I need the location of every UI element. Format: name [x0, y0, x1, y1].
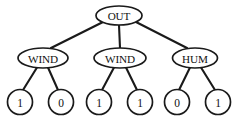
- node-wind-middle-label: WIND: [105, 53, 135, 65]
- edge-hum-right-leaf-5: [179, 68, 190, 91]
- edge-wind-middle-leaf-3: [102, 68, 114, 91]
- root-label: OUT: [108, 10, 131, 22]
- edge-wind-middle-leaf-4: [126, 68, 137, 91]
- leaf-2-label: 0: [58, 97, 64, 109]
- leaf-6-label: 1: [215, 97, 221, 109]
- leaf-4[interactable]: 1: [128, 90, 153, 115]
- node-wind-left-label: WIND: [28, 53, 58, 65]
- leaf-1-label: 1: [17, 97, 23, 109]
- edge-hum-right-leaf-6: [201, 68, 215, 91]
- leaf-1[interactable]: 1: [8, 90, 33, 115]
- node-hum-right[interactable]: HUM: [173, 48, 218, 68]
- leaf-2[interactable]: 0: [49, 90, 74, 115]
- node-wind-left[interactable]: WIND: [18, 48, 68, 68]
- node-wind-middle[interactable]: WIND: [94, 48, 146, 68]
- decision-tree-canvas: OUTWINDWINDHUM101101: [0, 0, 239, 117]
- leaf-4-label: 1: [137, 97, 143, 109]
- leaf-3[interactable]: 1: [87, 90, 112, 115]
- leaf-5-label: 0: [174, 97, 180, 109]
- node-hum-right-label: HUM: [182, 53, 208, 65]
- node-layer: OUTWINDWINDHUM101101: [8, 6, 231, 115]
- leaf-3-label: 1: [96, 97, 102, 109]
- edge-wind-left-leaf-1: [23, 68, 37, 91]
- edge-root-wind-middle: [119, 25, 120, 48]
- decision-tree-figure: OUTWINDWINDHUM101101: [0, 0, 239, 117]
- edge-root-hum-right: [136, 22, 187, 48]
- edge-wind-left-leaf-2: [48, 68, 58, 91]
- edge-root-wind-left: [51, 22, 103, 48]
- root[interactable]: OUT: [96, 6, 142, 25]
- leaf-6[interactable]: 1: [206, 90, 231, 115]
- leaf-5[interactable]: 0: [165, 90, 190, 115]
